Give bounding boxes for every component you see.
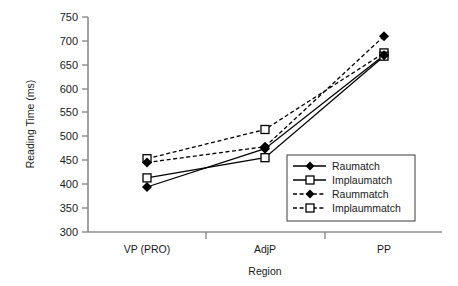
y-tick-label-750: 750 — [60, 11, 78, 23]
reading-time-line-chart: 750 700 650 600 550 500 450 400 350 300 … — [0, 0, 458, 286]
y-tick-label-500: 500 — [60, 130, 78, 142]
legend-label-implaumatch: Implaumatch — [332, 174, 392, 186]
y-tick-label-600: 600 — [60, 83, 78, 95]
legend-label-implaummatch: Implaummatch — [332, 202, 401, 214]
open-square-icon — [306, 204, 314, 212]
y-tick-label-550: 550 — [60, 106, 78, 118]
y-tick-label-300: 300 — [60, 226, 78, 238]
y-axis-title: Reading Time (ms) — [24, 80, 36, 169]
y-tick-label-400: 400 — [60, 178, 78, 190]
chart-figure: 750 700 650 600 550 500 450 400 350 300 … — [0, 0, 458, 286]
y-tick-label-450: 450 — [60, 154, 78, 166]
y-tick-label-350: 350 — [60, 202, 78, 214]
open-square-icon — [306, 176, 314, 184]
y-tick-label-650: 650 — [60, 59, 78, 71]
x-axis-title: Region — [248, 265, 281, 277]
x-category-label-pp: PP — [377, 243, 391, 255]
legend-label-raummatch: Raummatch — [332, 188, 389, 200]
y-tick-label-700: 700 — [60, 35, 78, 47]
x-category-label-adjp: AdjP — [254, 243, 276, 255]
legend-label-raumatch: Raumatch — [332, 160, 380, 172]
chart-legend: Raumatch Implaumatch Raummatch Implaumma… — [287, 155, 415, 221]
x-category-label-vp-pro: VP (PRO) — [124, 243, 170, 255]
